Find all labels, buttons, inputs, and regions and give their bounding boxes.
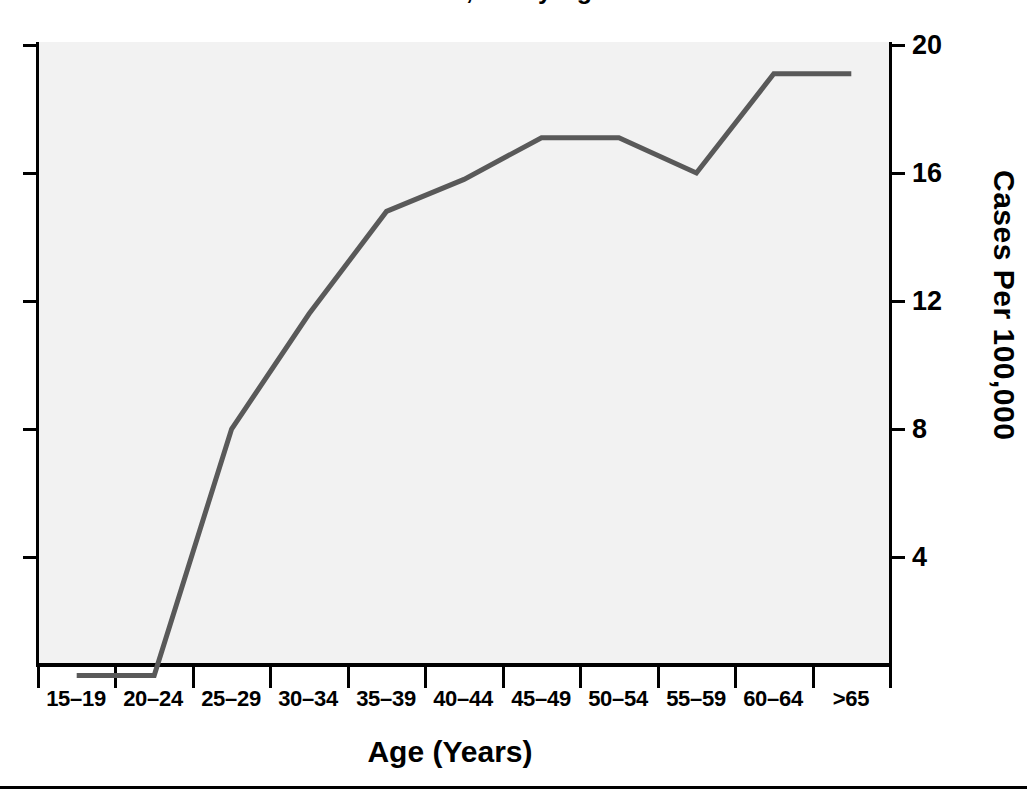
x-tick-3	[269, 666, 272, 688]
y-tick-left-16	[23, 172, 37, 175]
y-tick-left-20	[23, 44, 37, 47]
y-tick-left-4	[23, 556, 37, 559]
chart-title: Cases Per 100,000 by Age	[0, 0, 900, 5]
footer-band	[0, 789, 1027, 803]
x-axis-label-60-64: 60–64	[743, 686, 803, 712]
y-tick-right-12	[891, 300, 905, 303]
x-tick-1	[114, 666, 117, 688]
chart-figure: Cases Per 100,000 by Age 20 16 12 8 4 15…	[0, 0, 1027, 803]
y-axis-label-4: 4	[912, 544, 927, 571]
x-axis-title: Age (Years)	[0, 735, 900, 769]
plot-area	[38, 42, 890, 665]
x-axis-label-50-54: 50–54	[588, 686, 648, 712]
y-axis-label-16: 16	[912, 160, 942, 187]
x-tick-5	[424, 666, 427, 688]
y-tick-left-8	[23, 428, 37, 431]
y-tick-right-8	[891, 428, 905, 431]
x-tick-8	[657, 666, 660, 688]
x-tick-9	[734, 666, 737, 688]
x-tick-0	[37, 666, 40, 688]
y-tick-right-4	[891, 556, 905, 559]
y-axis-title: Cases Per 100,000	[987, 170, 1021, 440]
x-tick-11	[889, 666, 892, 688]
y-axis-left-spine	[36, 42, 39, 667]
y-axis-label-20: 20	[912, 32, 942, 59]
x-axis-label-40-44: 40–44	[433, 686, 493, 712]
x-axis-label-over-65: >65	[833, 686, 869, 712]
x-axis-label-35-39: 35–39	[356, 686, 416, 712]
y-axis-label-8: 8	[912, 416, 927, 443]
x-axis-label-55-59: 55–59	[666, 686, 726, 712]
y-tick-right-16	[891, 172, 905, 175]
y-tick-left-12	[23, 300, 37, 303]
x-tick-6	[502, 666, 505, 688]
x-axis-label-15-19: 15–19	[46, 686, 106, 712]
x-axis-spine	[36, 663, 892, 667]
x-tick-4	[347, 666, 350, 688]
y-tick-right-20	[891, 44, 905, 47]
x-axis-label-25-29: 25–29	[201, 686, 261, 712]
x-axis-label-45-49: 45–49	[511, 686, 571, 712]
x-axis-label-30-34: 30–34	[278, 686, 338, 712]
x-axis-label-20-24: 20–24	[123, 686, 183, 712]
x-tick-10	[812, 666, 815, 688]
y-axis-label-12: 12	[912, 288, 942, 315]
x-tick-7	[579, 666, 582, 688]
x-tick-2	[192, 666, 195, 688]
y-axis-right-spine	[889, 42, 892, 667]
